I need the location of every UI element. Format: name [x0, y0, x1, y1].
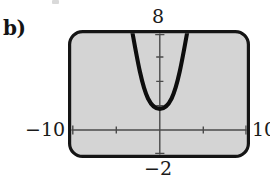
screen-grain	[71, 33, 247, 155]
y-max-label: 8	[152, 7, 164, 26]
graph-svg	[68, 30, 250, 158]
calculator-screen	[68, 30, 250, 158]
x-min-label: −10	[25, 120, 65, 139]
x-max-label: 10	[252, 120, 270, 139]
figure-container: b)	[0, 0, 270, 181]
scan-artifact	[52, 0, 59, 4]
y-min-label: −2	[144, 159, 172, 178]
part-label: b)	[3, 17, 25, 39]
